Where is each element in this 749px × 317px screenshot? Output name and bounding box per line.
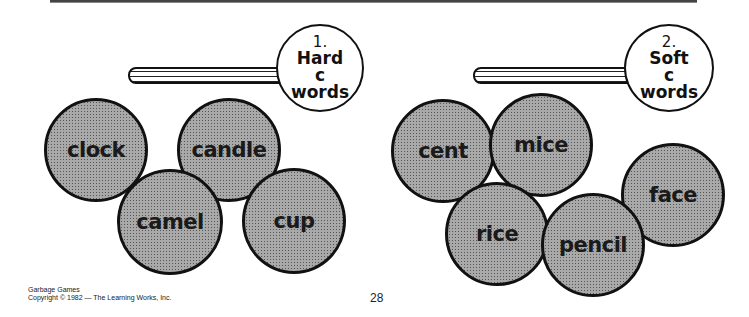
word-disc-pencil[interactable]: pencil [541,193,645,297]
sign-hard-c-words: 1. Hard c words [276,24,364,112]
word-label: mice [514,133,568,157]
sign-label-line: words [640,84,698,101]
book-title: Garbage Games [28,286,171,294]
word-label: candle [191,138,266,162]
sign-stick-left [128,67,292,84]
sign-stick-right [473,67,642,84]
word-disc-mice[interactable]: mice [489,93,593,197]
word-disc-cup[interactable]: cup [242,168,346,274]
word-label: rice [476,222,518,246]
sign-label-line: words [291,84,349,101]
copyright-footer: Garbage Games Copyright © 1982 — The Lea… [28,286,171,302]
word-label: face [649,183,697,207]
sign-soft-c-words: 2. Soft c words [624,24,714,112]
word-label: cent [418,139,468,163]
copyright-text: Copyright © 1982 — The Learning Works, I… [28,294,171,302]
word-label: pencil [559,233,627,257]
word-label: cup [274,209,315,233]
word-label: camel [136,210,203,234]
page-number: 28 [370,291,383,305]
word-disc-rice[interactable]: rice [445,182,549,286]
word-disc-camel[interactable]: camel [117,169,223,275]
word-label: clock [67,138,125,162]
top-border-line [50,0,697,3]
